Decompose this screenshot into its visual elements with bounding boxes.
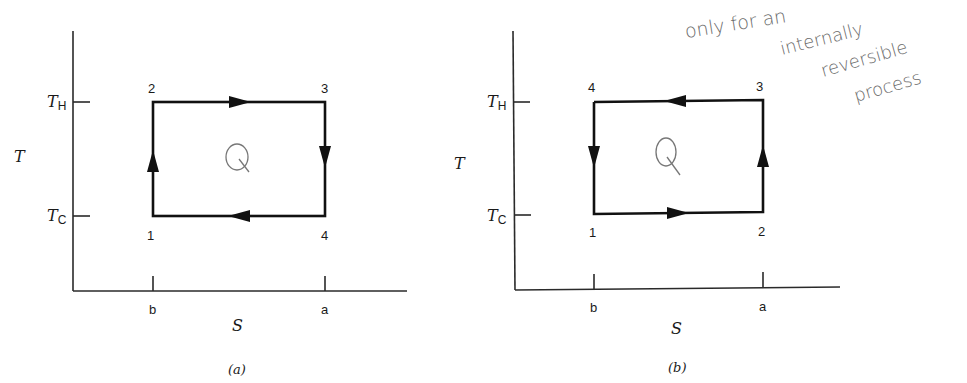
arrow-up-icon	[757, 145, 769, 167]
handwritten-q-b	[656, 138, 680, 175]
state-4: 4	[588, 80, 595, 95]
state-1: 1	[147, 228, 154, 243]
state-2: 2	[758, 224, 765, 239]
y-axis-label: T	[454, 154, 466, 173]
arrow-left-icon	[228, 210, 250, 222]
state-3: 3	[321, 81, 328, 96]
arrow-down-icon	[319, 146, 331, 168]
label-th: TH	[47, 92, 66, 113]
state-2: 2	[148, 81, 155, 96]
ts-diagram-figure: TH TC T b a S (a) 2 3 1 4 TH TC T b a S	[0, 0, 967, 383]
state-1: 1	[589, 225, 596, 240]
x-tick-label-a: a	[759, 299, 767, 314]
arrow-up-icon	[147, 150, 159, 172]
state-3: 3	[756, 79, 763, 94]
x-axis-label: S	[232, 316, 243, 335]
x-axis	[515, 287, 840, 290]
label-th: TH	[487, 92, 506, 113]
handwritten-annotation: only for an internally reversible proces…	[683, 4, 923, 106]
annotation-line-4: process	[851, 67, 923, 106]
y-axis	[513, 31, 515, 290]
x-axis-label: S	[671, 319, 682, 338]
panel-b: TH TC T b a S (b) 4 3 1 2	[454, 31, 840, 375]
caption-b: (b)	[668, 360, 686, 375]
annotation-line-1: only for an	[683, 4, 787, 42]
label-tc: TC	[487, 206, 507, 227]
arrow-right-icon	[229, 96, 251, 108]
caption-a: (a)	[228, 362, 246, 377]
carnot-cycle-rect	[594, 100, 763, 214]
arrow-left-icon	[664, 95, 686, 107]
state-4: 4	[321, 228, 328, 243]
arrow-down-icon	[588, 146, 600, 168]
y-axis-label: T	[14, 147, 26, 166]
arrow-right-icon	[667, 207, 689, 219]
x-tick-label-a: a	[321, 302, 329, 317]
label-tc: TC	[47, 206, 67, 227]
panel-a: TH TC T b a S (a) 2 3 1 4	[14, 31, 407, 377]
x-tick-label-b: b	[590, 300, 597, 315]
x-tick-label-b: b	[149, 302, 156, 317]
handwritten-q-a	[226, 144, 249, 172]
